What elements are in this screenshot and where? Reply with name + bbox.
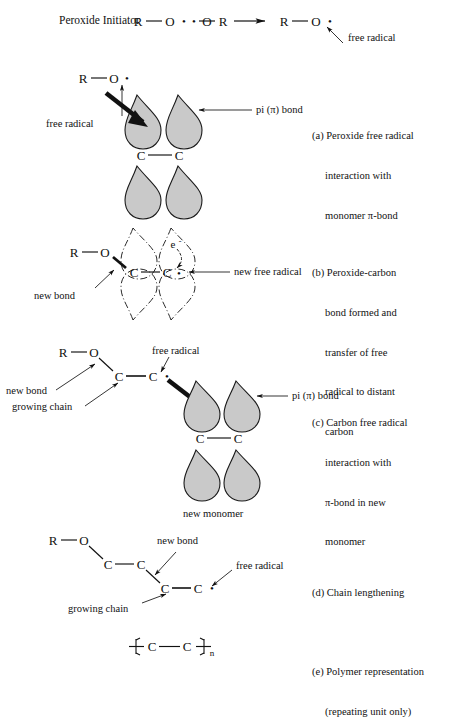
panel-b-radical-dot: • xyxy=(177,267,181,279)
panel-a-caption-line-1: (a) Peroxide free radical xyxy=(312,129,452,142)
panel-d-unit2-carbon-right: C xyxy=(194,581,203,596)
panel-a-free-radical-label: free radical xyxy=(46,117,94,130)
panel-e-caption-line-1: (e) Polymer representation xyxy=(312,665,455,678)
panel-c-free-radical-label: free radical xyxy=(152,344,200,357)
panel-b-orbital-lower-left xyxy=(121,269,157,320)
panel-b-caption-line-1: (b) Peroxide-carbon xyxy=(312,266,452,279)
panel-a-pi-lobe-lower-left xyxy=(125,166,161,219)
panel-c-caption-line-4: monomer xyxy=(312,535,452,548)
panel-a-pi-bond-label: pi (π) bond xyxy=(256,103,303,116)
top-reactant-r-right: R xyxy=(219,14,228,29)
panel-c-new-bond-leader xyxy=(56,364,95,390)
panel-b-electron-charge: - xyxy=(179,237,182,246)
panel-a-r: R xyxy=(79,71,88,86)
panel-c-pi-lobe-upper-left xyxy=(184,381,220,432)
panel-c-caption-line-2: interaction with xyxy=(312,456,452,469)
panel-d-o: O xyxy=(79,533,88,548)
panel-c-pi-lobe-lower-left xyxy=(184,450,220,501)
panel-c-growing-chain-label: growing chain xyxy=(12,400,72,413)
panel-e-carbon-right: C xyxy=(183,639,192,654)
top-reaction-label: Peroxide Initiator xyxy=(59,14,140,27)
panel-a-carbon-left: C xyxy=(137,148,146,163)
panel-b-new-bond-leader xyxy=(95,270,114,288)
free-radical-leader xyxy=(327,27,343,43)
panel-b-new-bond-label: new bond xyxy=(34,289,75,302)
panel-a-pi-lobe-lower-right xyxy=(166,166,202,219)
panel-b-caption-line-2: bond formed and xyxy=(312,306,452,319)
top-reactant-dot-left: • xyxy=(182,15,186,27)
panel-c-growing-chain-leader xyxy=(85,383,118,406)
panel-e-linework xyxy=(129,638,211,655)
panel-d-free-radical-leader xyxy=(212,570,232,586)
top-reactant-dot-right: • xyxy=(192,15,196,27)
panel-c-chain-carbon-right: C xyxy=(149,369,158,384)
panel-c-pi-lobe-upper-right xyxy=(224,381,260,432)
panel-b-electron-label: e xyxy=(171,238,176,250)
panel-a-linework xyxy=(91,78,252,219)
panel-b-electron-transfer-arrow xyxy=(177,249,182,268)
panel-a-radical-dot: • xyxy=(125,72,129,84)
panel-a-caption-line-3: monomer π-bond xyxy=(312,209,452,222)
top-product-radical-dot: • xyxy=(328,15,332,27)
panel-a-caption: (a) Peroxide free radical interaction wi… xyxy=(312,103,452,248)
panel-c-new-monomer-label: new monomer xyxy=(183,507,243,520)
panel-b-new-free-radical-label: new free radical xyxy=(234,265,302,278)
top-free-radical-label: free radical xyxy=(348,31,396,44)
panel-b-linework xyxy=(82,228,230,320)
panel-d-unit2-carbon-left: C xyxy=(161,581,170,596)
panel-a-o: O xyxy=(109,71,118,86)
panel-b-new-bond-stroke xyxy=(113,257,126,268)
panel-a-carbon-right: C xyxy=(175,148,184,163)
panel-d-radical-dot: • xyxy=(210,582,214,594)
panel-c-caption-line-3: π-bond in new xyxy=(312,496,452,509)
panel-e-carbon-left: C xyxy=(148,639,157,654)
top-reactant-o-left: O xyxy=(165,14,174,29)
top-product-r: R xyxy=(280,14,289,29)
panel-c-linework xyxy=(56,352,288,501)
panel-a-caption-line-2: interaction with xyxy=(312,169,452,182)
panel-e-caption: (e) Polymer representation (repeating un… xyxy=(312,639,455,722)
panel-e-subscript-n: n xyxy=(210,648,215,658)
panel-e-caption-line-2: (repeating unit only) xyxy=(312,705,455,718)
top-product-o: O xyxy=(311,14,320,29)
panel-d-unit1-carbon-right: C xyxy=(137,557,146,572)
panel-d-r: R xyxy=(49,533,58,548)
panel-c-caption: (c) Carbon free radical interaction with… xyxy=(312,390,452,575)
panel-d-new-bond-leader xyxy=(155,552,176,575)
panel-c-monomer-carbon-right: C xyxy=(234,431,243,446)
panel-c-pi-lobe-lower-right xyxy=(224,450,260,501)
panel-c-new-bond-label: new bond xyxy=(6,384,47,397)
panel-d-new-bond-label: new bond xyxy=(157,534,198,547)
panel-a-pi-lobe-upper-right xyxy=(166,95,202,149)
panel-b-orbital-upper-left xyxy=(121,228,157,279)
panel-c-r: R xyxy=(59,345,68,360)
top-reactant-o-right: O xyxy=(202,14,211,29)
panel-b-carbon-right: C xyxy=(163,265,172,280)
panel-b-caption-line-3: transfer of free xyxy=(312,346,452,359)
panel-c-monomer-carbon-left: C xyxy=(196,431,205,446)
panel-d-unit1-carbon-left: C xyxy=(104,557,113,572)
panel-b-o: O xyxy=(100,245,109,260)
panel-d-caption: (d) Chain lengthening xyxy=(312,560,452,626)
panel-d-free-radical-label: free radical xyxy=(236,559,284,572)
panel-c-radical-dot: • xyxy=(165,370,169,382)
panel-c-caption-line-1: (c) Carbon free radical xyxy=(312,416,452,429)
panel-c-o: O xyxy=(89,345,98,360)
panel-d-caption-line-1: (d) Chain lengthening xyxy=(312,586,452,599)
panel-c-chain-carbon-left: C xyxy=(115,369,124,384)
panel-b-carbon-left: C xyxy=(130,265,139,280)
panel-b-r: R xyxy=(70,245,79,260)
panel-d-linework xyxy=(61,540,232,603)
panel-d-growing-chain-label: growing chain xyxy=(68,602,128,615)
